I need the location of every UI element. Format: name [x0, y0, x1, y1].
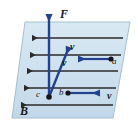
velocity-label-b: v	[107, 91, 111, 101]
field-label-B: B	[20, 105, 28, 117]
particle-label-b: b	[59, 88, 64, 97]
velocity-label-a: v	[62, 58, 66, 68]
particle-label-a: a	[112, 57, 117, 66]
magnetic-field-plane	[12, 22, 130, 118]
force-label-F: F	[60, 8, 68, 20]
particle-label-c: c	[36, 90, 40, 99]
velocity-label-c: v	[70, 42, 74, 52]
particle-dot-c	[46, 94, 52, 100]
physics-diagram-figure: F B v v v a b c	[0, 0, 138, 128]
particle-dot-b	[65, 90, 70, 95]
